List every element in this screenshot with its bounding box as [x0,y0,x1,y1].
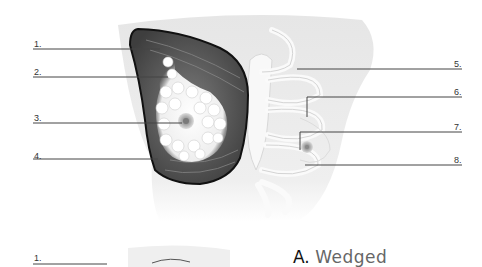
anatomy-figure [0,0,482,267]
label-3: 3. [34,114,42,123]
label-2: 2. [34,68,42,77]
bottom-partial-figure [128,245,230,267]
caption-word: Wedged [315,247,387,267]
label-5: 5. [454,60,462,69]
label-8: 8. [454,156,462,165]
label-4: 4. [34,152,42,161]
answer-caption: A. Wedged [293,247,387,267]
label-6: 6. [454,88,462,97]
label-1: 1. [34,40,42,49]
caption-letter: A. [293,247,310,267]
bottom-label-1: 1. [34,254,42,263]
label-7: 7. [454,123,462,132]
